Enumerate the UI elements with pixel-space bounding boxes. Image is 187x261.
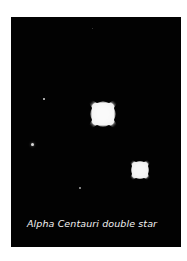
astronomy-photo: Alpha Centauri double star [11,17,181,247]
faint-star-4 [92,28,93,29]
star-alpha-centauri-b [126,156,154,184]
faint-star-1 [43,98,45,100]
star-alpha-centauri-a [83,94,123,134]
faint-star-2 [31,143,34,146]
faint-star-3 [79,187,81,189]
image-caption: Alpha Centauri double star [27,218,157,229]
